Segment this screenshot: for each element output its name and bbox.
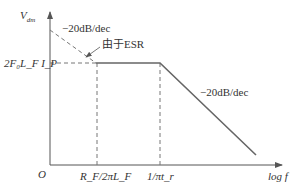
- slope-label-left: −20dB/dec: [62, 22, 110, 34]
- asymptote-line: [96, 63, 256, 155]
- slope-label-right: −20dB/dec: [200, 86, 248, 98]
- x-tick-1: R_F/2πL_F: [79, 170, 132, 182]
- x-tick-2: 1/πt_r: [147, 170, 175, 182]
- y-level-label: 2F₀L_F I_P: [4, 57, 57, 69]
- y-axis-label: Vdm: [20, 9, 35, 24]
- bode-diagram: Vdm −20dB/dec 由于ESR 2F₀L_F I_P −20dB/dec…: [0, 0, 303, 187]
- esr-arrow: [86, 47, 100, 57]
- x-axis-label: log f: [268, 170, 290, 182]
- origin-label: O: [38, 168, 46, 180]
- esr-annotation: 由于ESR: [102, 37, 145, 50]
